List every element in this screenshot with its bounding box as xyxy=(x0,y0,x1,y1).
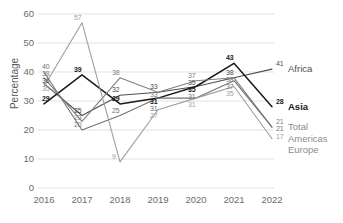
data-label: 32 xyxy=(112,86,120,93)
data-label: 43 xyxy=(226,54,234,61)
data-label: 28 xyxy=(276,98,284,105)
data-label: 23 xyxy=(74,114,82,121)
data-label: 57 xyxy=(74,14,82,21)
data-label: 29 xyxy=(42,95,50,102)
data-label: 35 xyxy=(42,85,50,92)
data-label: 35 xyxy=(188,79,196,86)
data-label: 35 xyxy=(226,90,234,97)
data-label: 20 xyxy=(74,121,82,128)
data-label: 9 xyxy=(112,153,116,160)
data-label: 37 xyxy=(226,83,234,90)
data-label: 21 xyxy=(276,125,284,132)
series-label-total: Total xyxy=(288,122,308,132)
data-label: 35 xyxy=(188,86,196,93)
data-label: 21 xyxy=(276,118,284,125)
data-label: 37 xyxy=(188,72,196,79)
series-label-americas: Americas xyxy=(288,134,328,144)
series-label-europe: Europe xyxy=(288,145,319,155)
data-label: 29 xyxy=(112,95,120,102)
data-label: 36 xyxy=(42,77,50,84)
data-label: 17 xyxy=(276,133,284,140)
data-label: 38 xyxy=(42,70,50,77)
data-label: 38 xyxy=(226,69,234,76)
line-chart: Percentage 0102030405060 201620172018201… xyxy=(0,0,343,223)
data-label: 38 xyxy=(112,69,120,76)
data-label: 33 xyxy=(150,83,158,90)
data-label: 25 xyxy=(74,107,82,114)
series-label-africa: Africa xyxy=(288,64,312,74)
series-label-asia: Asia xyxy=(288,102,308,112)
data-label: 31 xyxy=(188,101,196,108)
data-label: 40 xyxy=(42,63,50,70)
data-label: 25 xyxy=(112,107,120,114)
data-label: 38 xyxy=(226,76,234,83)
data-label: 39 xyxy=(74,66,82,73)
data-label: 31 xyxy=(188,93,196,100)
data-label: 41 xyxy=(276,60,284,67)
data-label: 33 xyxy=(150,91,158,98)
data-label: 31 xyxy=(150,98,158,105)
data-label: 31 xyxy=(150,105,158,112)
data-label: 27 xyxy=(150,112,158,119)
